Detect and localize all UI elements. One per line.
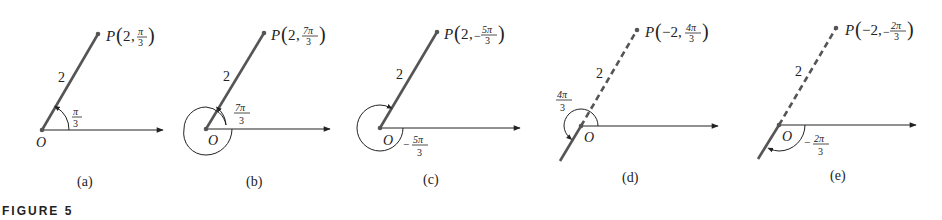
svg-text:−2: −2 <box>862 22 878 38</box>
svg-text:3: 3 <box>138 37 143 48</box>
svg-text:,: , <box>131 28 135 44</box>
panel-caption: (c) <box>423 172 439 188</box>
svg-text:3: 3 <box>818 146 823 157</box>
terminal-ray-solid <box>758 125 779 159</box>
svg-text:): ) <box>148 24 155 47</box>
svg-text:3: 3 <box>560 102 565 113</box>
origin-dot <box>40 128 45 133</box>
origin-dot <box>378 126 383 131</box>
angle-arc-icon <box>57 107 70 130</box>
svg-text:): ) <box>702 20 709 43</box>
origin-dot <box>579 124 584 129</box>
panel-b: O 2 7π 3 P ( 2 , 7π 3 ) (b) <box>184 23 330 190</box>
svg-text:2: 2 <box>123 28 131 44</box>
svg-text:3: 3 <box>485 35 490 46</box>
svg-text:−2: −2 <box>662 24 678 40</box>
panel-caption: (a) <box>77 174 93 190</box>
point-p-label: P ( 2 , π 3 ) <box>105 24 155 48</box>
radius-segment <box>206 33 264 129</box>
point-p-dot <box>96 32 101 37</box>
svg-text:π: π <box>138 26 144 37</box>
origin-dot <box>777 123 782 128</box>
svg-text:3: 3 <box>894 31 899 42</box>
svg-text:(: ( <box>855 18 862 41</box>
segment-length-label: 2 <box>795 64 802 79</box>
angle-label: 4π 3 <box>556 89 572 113</box>
panel-caption: (d) <box>622 170 639 186</box>
svg-text:,: , <box>296 27 300 43</box>
svg-text:5π: 5π <box>413 134 424 145</box>
svg-text:3: 3 <box>689 33 694 44</box>
panel-caption: (e) <box>830 168 846 184</box>
segment-length-label: 2 <box>396 67 403 82</box>
radius-segment <box>42 34 98 130</box>
svg-text:3: 3 <box>73 118 78 129</box>
svg-text:2π: 2π <box>814 133 825 144</box>
svg-text:): ) <box>907 18 914 41</box>
panel-a: O 2 π 3 P ( 2 , π 3 ) (a) <box>36 24 163 190</box>
segment-length-label: 2 <box>223 69 230 84</box>
svg-text:(: ( <box>655 20 662 43</box>
panel-caption: (b) <box>246 174 263 190</box>
svg-text:(: ( <box>116 24 123 47</box>
svg-text:P: P <box>644 24 654 40</box>
figure-caption: FIGURE 5 <box>2 204 73 218</box>
origin-label: O <box>383 133 393 148</box>
svg-text:4π: 4π <box>686 22 697 33</box>
point-p-label: P ( 2 , 7π 3 ) <box>270 23 326 47</box>
svg-text:,: , <box>678 24 682 40</box>
point-p-dot <box>435 30 440 35</box>
svg-text:2: 2 <box>288 27 296 43</box>
svg-text:2: 2 <box>461 26 469 42</box>
svg-text:): ) <box>319 23 326 46</box>
svg-text:−: − <box>883 25 890 39</box>
svg-text:,: , <box>878 22 882 38</box>
segment-length-label: 2 <box>596 66 603 81</box>
svg-text:4π: 4π <box>557 89 568 100</box>
origin-label: O <box>208 133 218 148</box>
terminal-ray-solid <box>560 126 581 161</box>
svg-text:3: 3 <box>239 115 244 126</box>
origin-dot <box>204 127 209 132</box>
angle-label: 7π 3 <box>234 102 250 126</box>
panel-d: O 2 4π 3 P ( −2 , 4π 3 ) (d) <box>556 20 718 186</box>
svg-text:3: 3 <box>417 147 422 158</box>
polar-coordinates-figure: O 2 π 3 P ( 2 , π 3 ) (a) O 2 7π <box>0 0 942 220</box>
panel-e: O 2 − 2π 3 P ( −2 , − 2π 3 ) (e) <box>758 18 916 184</box>
svg-text:P: P <box>105 28 115 44</box>
point-p-label: P ( −2 , 4π 3 ) <box>644 20 709 44</box>
svg-text:(: ( <box>454 22 461 45</box>
svg-text:2π: 2π <box>891 20 902 31</box>
angle-label: − 5π 3 <box>403 134 428 158</box>
angle-label: π 3 <box>72 106 82 129</box>
angle-label: − 2π 3 <box>804 133 829 157</box>
panel-c: O 2 − 5π 3 P ( 2 , − 5π 3 ) (c) <box>357 22 520 188</box>
svg-text:P: P <box>270 27 280 43</box>
radius-segment-dashed <box>779 28 836 125</box>
svg-text:(: ( <box>281 23 288 46</box>
svg-text:−: − <box>403 138 409 150</box>
svg-text:,: , <box>469 26 473 42</box>
svg-text:P: P <box>443 26 453 42</box>
svg-text:−: − <box>804 136 810 148</box>
point-p-dot <box>635 28 640 33</box>
origin-label: O <box>36 135 46 150</box>
svg-text:−: − <box>474 29 481 43</box>
radius-segment <box>380 32 437 128</box>
svg-text:): ) <box>498 22 505 45</box>
svg-text:7π: 7π <box>303 25 314 36</box>
point-p-dot <box>834 26 839 31</box>
origin-label: O <box>782 129 792 144</box>
point-p-label: P ( 2 , − 5π 3 ) <box>443 22 505 46</box>
segment-length-label: 2 <box>58 70 65 85</box>
svg-text:P: P <box>844 22 854 38</box>
point-p-dot <box>262 31 267 36</box>
svg-text:3: 3 <box>306 36 311 47</box>
svg-text:5π: 5π <box>482 24 493 35</box>
svg-text:7π: 7π <box>235 102 246 113</box>
svg-text:π: π <box>73 106 79 117</box>
origin-label: O <box>584 130 594 145</box>
point-p-label: P ( −2 , − 2π 3 ) <box>844 18 914 42</box>
